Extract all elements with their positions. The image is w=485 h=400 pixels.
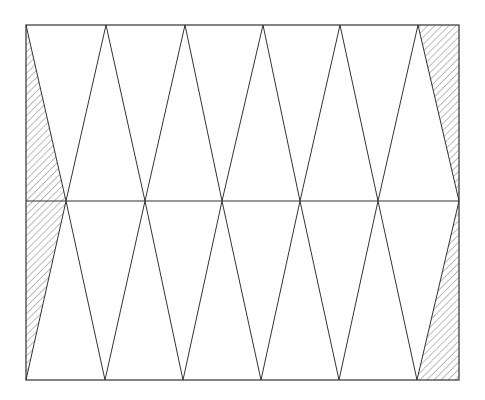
triangle-lines: [26, 25, 459, 380]
lower-diagonal: [378, 201, 417, 380]
upper-diagonal: [106, 25, 145, 201]
upper-diagonal: [378, 25, 418, 201]
triangulated-strip-diagram: [0, 0, 485, 400]
lower-diagonal: [300, 201, 339, 380]
upper-diagonal: [340, 25, 378, 201]
upper-diagonal: [263, 25, 300, 201]
lower-diagonal: [183, 201, 222, 380]
lower-diagonal: [66, 201, 105, 380]
upper-diagonal: [145, 25, 185, 201]
lower-diagonal: [261, 201, 300, 380]
upper-diagonal: [222, 25, 263, 201]
outer-frame: [26, 25, 459, 380]
upper-diagonal: [300, 25, 340, 201]
upper-diagonal: [185, 25, 222, 201]
hatched-regions: [26, 25, 459, 380]
lower-diagonal: [145, 201, 183, 380]
lower-diagonal: [222, 201, 261, 380]
upper-diagonal: [66, 25, 106, 201]
lower-diagonal: [339, 201, 378, 380]
lower-diagonal: [105, 201, 145, 380]
